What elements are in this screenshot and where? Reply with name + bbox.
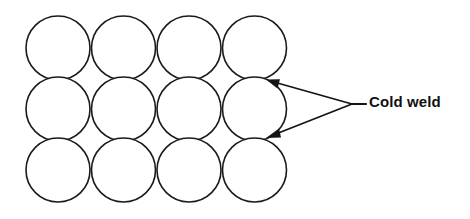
sphere-r1c1	[26, 16, 90, 80]
sphere-r3c1	[26, 138, 90, 202]
sphere-r1c4	[223, 16, 287, 80]
sphere-row-middle	[26, 77, 287, 141]
sphere-r3c2	[92, 138, 156, 202]
sphere-r3c3	[157, 138, 221, 202]
cold-weld-label: Cold weld	[369, 93, 441, 110]
sphere-row-bottom	[26, 138, 287, 202]
sphere-r2c2	[92, 77, 156, 141]
sphere-r1c3	[157, 16, 221, 80]
sphere-r1c2	[92, 16, 156, 80]
sphere-r2c3	[157, 77, 221, 141]
cold-weld-figure: Cold weld	[0, 0, 470, 219]
sphere-r2c1	[26, 77, 90, 141]
sphere-r3c4	[223, 138, 287, 202]
sphere-row-top	[26, 16, 287, 80]
